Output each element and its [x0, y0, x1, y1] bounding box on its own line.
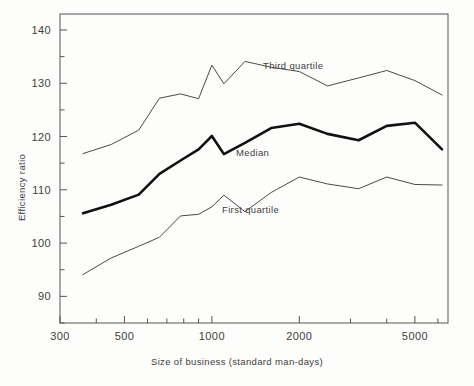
y-tick-label: 90 — [38, 290, 51, 302]
x-tick-label: 500 — [115, 330, 135, 342]
chart-figure: 14013012011010090 300500100020005000 Thi… — [0, 0, 474, 386]
y-tick-label: 130 — [31, 77, 51, 89]
x-axis-title: Size of business (standard man-days) — [0, 356, 474, 367]
y-tick-label: 140 — [31, 24, 51, 36]
x-tick-label: 5000 — [402, 330, 428, 342]
y-tick-label: 120 — [31, 131, 51, 143]
x-tick-label: 1000 — [199, 330, 225, 342]
series-label-median: Median — [236, 147, 269, 158]
y-tick-label: 110 — [32, 184, 51, 196]
y-axis-title: Efficiency ratio — [16, 128, 27, 248]
series-label-third-quartile: Third quartile — [263, 60, 323, 71]
series-label-first-quartile: First quartile — [222, 204, 279, 215]
x-tick-label: 2000 — [286, 330, 312, 342]
x-tick-label: 300 — [50, 330, 70, 342]
chart-background — [0, 0, 474, 386]
quartile-efficiency-line-chart: 14013012011010090 300500100020005000 Thi… — [0, 0, 474, 386]
y-tick-label: 100 — [31, 237, 51, 249]
